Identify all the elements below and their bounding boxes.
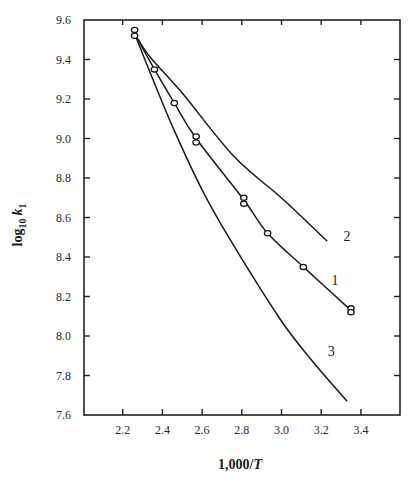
y-tick-label: 9.4 (56, 53, 71, 67)
data-point-marker (348, 310, 354, 315)
data-point-marker (264, 231, 270, 236)
curve-label-3: 3 (328, 344, 335, 359)
y-tick-label: 9.2 (56, 92, 71, 106)
data-point-marker (193, 140, 199, 145)
chart: 2.22.42.62.83.03.23.4 7.67.88.08.28.48.6… (0, 0, 414, 480)
x-tick-label: 2.6 (195, 423, 210, 437)
x-tick-label: 2.4 (155, 423, 170, 437)
x-tick-label: 3.4 (353, 423, 368, 437)
curve-labels: 123 (328, 229, 351, 359)
y-tick-label: 7.6 (56, 408, 71, 422)
y-tick-label: 8.6 (56, 211, 71, 225)
data-point-marker (193, 134, 199, 139)
data-point-marker (300, 264, 306, 269)
y-tick-label: 8.8 (56, 171, 71, 185)
y-tick-label: 8.0 (56, 329, 71, 343)
y-tick-label: 7.8 (56, 369, 71, 383)
x-tick-label: 3.2 (314, 423, 329, 437)
y-tick-label: 9.0 (56, 132, 71, 146)
y-tick-label: 9.6 (56, 13, 71, 27)
y-axis-right-ticks (394, 60, 400, 376)
curve-label-1: 1 (332, 273, 339, 288)
curve-2 (135, 34, 328, 241)
y-axis-title: log10k1 (10, 204, 28, 247)
svg-text:log10k1: log10k1 (10, 204, 28, 247)
data-point-marker (241, 201, 247, 206)
data-point-marker (241, 195, 247, 200)
data-point-marker (131, 33, 137, 38)
y-axis-ticks: 7.67.88.08.28.48.68.89.09.29.49.6 (56, 13, 90, 422)
x-tick-label: 3.0 (274, 423, 289, 437)
x-axis-ticks: 2.22.42.62.83.03.23.4 (115, 409, 368, 437)
data-point-marker (171, 100, 177, 105)
y-tick-label: 8.4 (56, 250, 71, 264)
curves (135, 34, 351, 401)
curve-label-2: 2 (344, 229, 351, 244)
data-point-marker (151, 67, 157, 72)
data-markers (131, 27, 354, 315)
x-tick-label: 2.2 (115, 423, 130, 437)
plot-frame (84, 20, 400, 415)
x-axis-title: 1,000/T (218, 457, 263, 472)
y-tick-label: 8.2 (56, 290, 71, 304)
data-point-marker (131, 27, 137, 32)
x-tick-label: 2.8 (234, 423, 249, 437)
